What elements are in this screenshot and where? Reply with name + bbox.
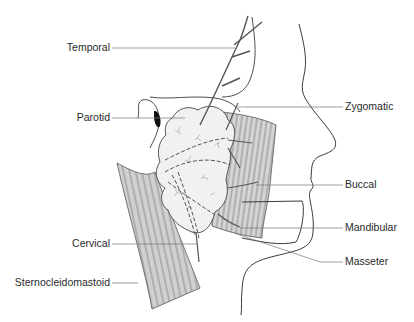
anatomy-diagram	[0, 0, 414, 322]
label-sternocleidomastoid: Sternocleidomastoid	[15, 276, 110, 288]
label-buccal: Buccal	[345, 178, 377, 190]
ear-canal	[154, 111, 161, 127]
label-masseter: Masseter	[345, 255, 388, 267]
label-mandibular: Mandibular	[345, 221, 397, 233]
leader-masseter	[234, 233, 343, 262]
label-cervical: Cervical	[72, 237, 110, 249]
label-parotid: Parotid	[77, 111, 110, 123]
label-zygomatic: Zygomatic	[345, 100, 393, 112]
label-temporal: Temporal	[67, 41, 110, 53]
temple-contour	[222, 17, 255, 97]
